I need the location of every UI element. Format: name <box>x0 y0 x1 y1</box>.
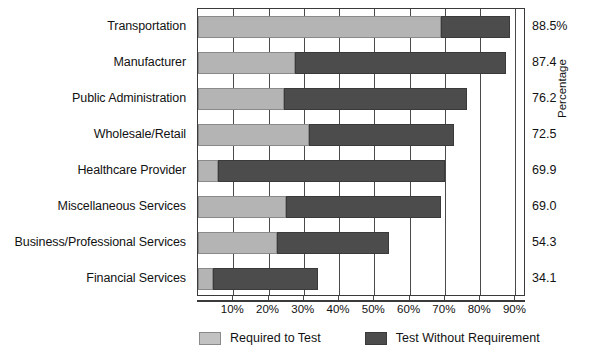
light-gray-swatch-icon <box>199 332 221 345</box>
stacked-bar-chart: TransportationManufacturerPublic Adminis… <box>0 0 589 359</box>
total-value-label: 88.5% <box>532 19 578 33</box>
bar-segment <box>277 232 389 254</box>
category-label: Manufacturer <box>0 55 186 69</box>
legend-item-test-without-requirement: Test Without Requirement <box>365 331 540 345</box>
total-value-label: 87.4 <box>532 55 578 69</box>
category-label: Transportation <box>0 19 186 33</box>
x-tick-label: 70% <box>424 303 464 316</box>
bar-segment <box>286 196 441 218</box>
bar-segment <box>309 124 454 146</box>
legend-label-test-without-requirement: Test Without Requirement <box>396 331 540 345</box>
bar-row <box>198 88 526 110</box>
bar-segment <box>198 196 286 218</box>
bar-segment <box>218 160 444 182</box>
x-tick-label: 80% <box>459 303 499 316</box>
total-value-label: 69.9 <box>532 163 578 177</box>
chart-legend: Required to Test Test Without Requiremen… <box>197 328 589 348</box>
x-tick-label: 60% <box>389 303 429 316</box>
x-tick-label: 90% <box>494 303 534 316</box>
total-value-label: 54.3 <box>532 235 578 249</box>
bar-segment <box>198 160 218 182</box>
category-label: Wholesale/Retail <box>0 127 186 141</box>
bar-segment <box>284 88 466 110</box>
total-value-labels: 88.5%87.476.272.569.969.054.334.1 <box>532 8 580 296</box>
category-label: Financial Services <box>0 271 186 285</box>
x-tick-label: 20% <box>248 303 288 316</box>
bar-segment <box>441 16 510 38</box>
bar-row <box>198 232 526 254</box>
bar-segment <box>213 268 318 290</box>
bar-row <box>198 124 526 146</box>
bar-row <box>198 16 526 38</box>
bar-row <box>198 52 526 74</box>
total-value-label: 34.1 <box>532 271 578 285</box>
total-value-label: 72.5 <box>532 127 578 141</box>
category-label: Healthcare Provider <box>0 163 186 177</box>
plot-area <box>197 8 525 296</box>
legend-item-required-to-test: Required to Test <box>199 331 321 345</box>
category-axis-labels: TransportationManufacturerPublic Adminis… <box>0 8 192 296</box>
x-tick-label: 30% <box>283 303 323 316</box>
bar-segment <box>198 124 309 146</box>
bar-segment <box>198 16 441 38</box>
bar-segment <box>198 52 295 74</box>
x-tick-label: 50% <box>353 303 393 316</box>
x-axis-line <box>197 300 525 302</box>
bar-segment <box>295 52 506 74</box>
bar-segment <box>198 232 277 254</box>
bar-segment <box>198 88 284 110</box>
legend-label-required-to-test: Required to Test <box>230 331 321 345</box>
bar-row <box>198 196 526 218</box>
total-value-label: 76.2 <box>532 91 578 105</box>
category-label: Miscellaneous Services <box>0 199 186 213</box>
y-axis-title: Percentage <box>556 59 568 118</box>
bar-series-group <box>198 9 524 295</box>
bar-row <box>198 268 526 290</box>
category-label: Public Administration <box>0 91 186 105</box>
category-label: Business/Professional Services <box>0 235 186 249</box>
x-tick-label: 10% <box>212 303 252 316</box>
dark-gray-swatch-icon <box>365 332 387 345</box>
bar-segment <box>198 268 213 290</box>
x-tick-label: 40% <box>318 303 358 316</box>
total-value-label: 69.0 <box>532 199 578 213</box>
bar-row <box>198 160 526 182</box>
